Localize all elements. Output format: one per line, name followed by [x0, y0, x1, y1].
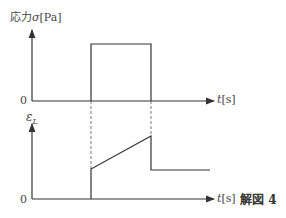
y-unit: [Pa]: [40, 11, 62, 24]
bottom-origin-label: 0: [20, 193, 27, 206]
strain-response: [91, 136, 210, 199]
bottom-y-axis-label: εL: [26, 110, 38, 126]
top-y-axis-label: 応力σ[Pa]: [10, 8, 62, 24]
stress-pulse: [91, 44, 151, 101]
top-origin-label: 0: [20, 94, 27, 107]
bottom-x-axis-label: t[s]: [217, 192, 236, 205]
figure-caption: 解図 4: [240, 190, 277, 207]
diagram-canvas: [0, 0, 286, 218]
y-label-text: 応力: [10, 11, 32, 24]
x-unit: [s]: [221, 192, 235, 205]
epsilon-subscript: L: [32, 117, 37, 126]
sigma-symbol: σ: [32, 11, 40, 24]
x-unit: [s]: [221, 93, 235, 106]
top-x-axis-label: t[s]: [217, 93, 236, 106]
